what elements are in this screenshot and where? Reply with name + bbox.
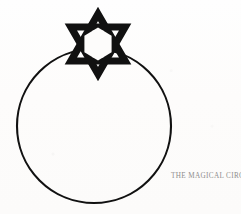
figure-caption: THE MAGICAL CIRCLE xyxy=(171,173,235,180)
magical-circle-diagram xyxy=(0,0,241,214)
magical-circle-figure-page: THE MAGICAL CIRCLE xyxy=(0,0,241,214)
hexagram-star-shape xyxy=(71,14,125,74)
